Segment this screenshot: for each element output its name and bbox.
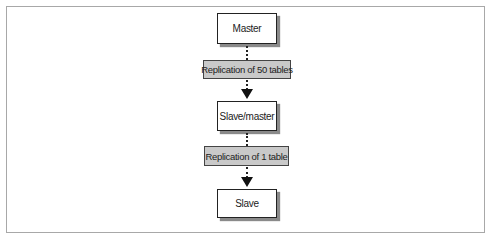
- node-slave-label: Slave: [235, 198, 259, 209]
- node-master: Master: [217, 13, 277, 44]
- node-slave: Slave: [217, 189, 277, 218]
- edge-label-replication-1: Replication of 1 table: [204, 146, 289, 166]
- edge-label-text: Replication of 1 table: [205, 151, 287, 162]
- edge-label-replication-50: Replication of 50 tables: [203, 60, 291, 79]
- node-slave-master-label: Slave/master: [220, 111, 275, 122]
- edge-label-text: Replication of 50 tables: [201, 64, 293, 75]
- arrowhead-down-icon: [241, 89, 253, 99]
- connector-dotted: [246, 133, 248, 146]
- node-slave-master: Slave/master: [217, 101, 277, 131]
- connector-dotted: [246, 46, 248, 60]
- arrowhead-down-icon: [241, 177, 253, 187]
- node-master-label: Master: [233, 23, 262, 34]
